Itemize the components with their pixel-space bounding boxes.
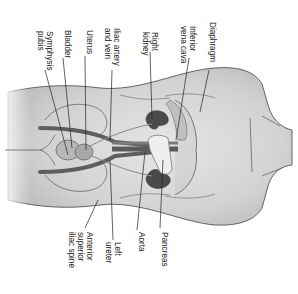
label-iliac-line2: and vein [103, 28, 112, 59]
label-ivc-line2: vena cava [179, 26, 188, 64]
label-pancreas-text: Pancreas [160, 232, 169, 267]
label-uterus-text: Uterus [85, 30, 94, 54]
label-right-kidney: Right kidney [141, 32, 159, 57]
label-asis-line3: iliac spine [67, 232, 76, 268]
label-symphysis-pubis: Symphysis pubis [36, 31, 54, 71]
label-diaphragm: Diaphragm [208, 22, 217, 62]
label-iliac-artery-vein: Iliac artery and vein [103, 28, 121, 67]
label-asis-line1: Anterior [85, 232, 94, 261]
label-right-kidney-line1: Right [150, 32, 159, 52]
label-anterior-superior-iliac-spine: Anterior superior iliac spine [67, 232, 94, 268]
label-pancreas: Pancreas [160, 232, 169, 267]
label-diaphragm-text: Diaphragm [208, 22, 217, 62]
label-left-ureter-line1: Left [113, 242, 122, 256]
label-aorta: Aorta [137, 232, 146, 252]
label-bladder-text: Bladder [63, 30, 72, 58]
anatomy-diagram: Diaphragm Inferior vena cava Right kidne… [0, 0, 298, 294]
label-inferior-vena-cava: Inferior vena cava [179, 26, 197, 64]
torso-illustration: Diaphragm Inferior vena cava Right kidne… [0, 0, 298, 294]
label-aorta-text: Aorta [137, 232, 146, 252]
label-uterus: Uterus [85, 30, 94, 54]
label-bladder: Bladder [63, 30, 72, 58]
label-ivc-line1: Inferior [188, 26, 197, 52]
label-iliac-line1: Iliac artery [112, 28, 121, 67]
label-symphysis-line1: Symphysis [45, 31, 54, 71]
label-symphysis-line2: pubis [36, 31, 45, 51]
label-left-ureter: Left ureter [104, 242, 122, 264]
label-left-ureter-line2: ureter [104, 242, 113, 264]
label-asis-line2: superior [76, 232, 85, 262]
label-right-kidney-line2: kidney [141, 32, 150, 57]
